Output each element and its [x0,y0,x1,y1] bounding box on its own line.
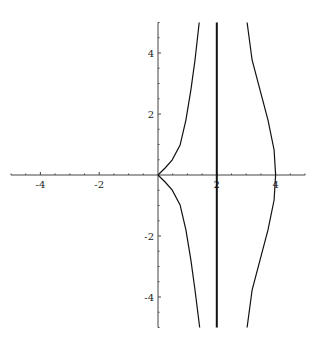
left-branch-upper-curve [158,23,199,176]
plot-area: -4-22442-2-4 [0,0,318,342]
y-tick-label: 2 [148,109,154,120]
y-tick-label: 4 [148,48,154,59]
left-branch-lower-curve [158,175,200,328]
y-tick-label: -2 [144,231,154,242]
y-tick-label: -4 [144,292,154,303]
x-tick-label: -4 [36,179,46,190]
x-tick-label: -2 [94,179,104,190]
